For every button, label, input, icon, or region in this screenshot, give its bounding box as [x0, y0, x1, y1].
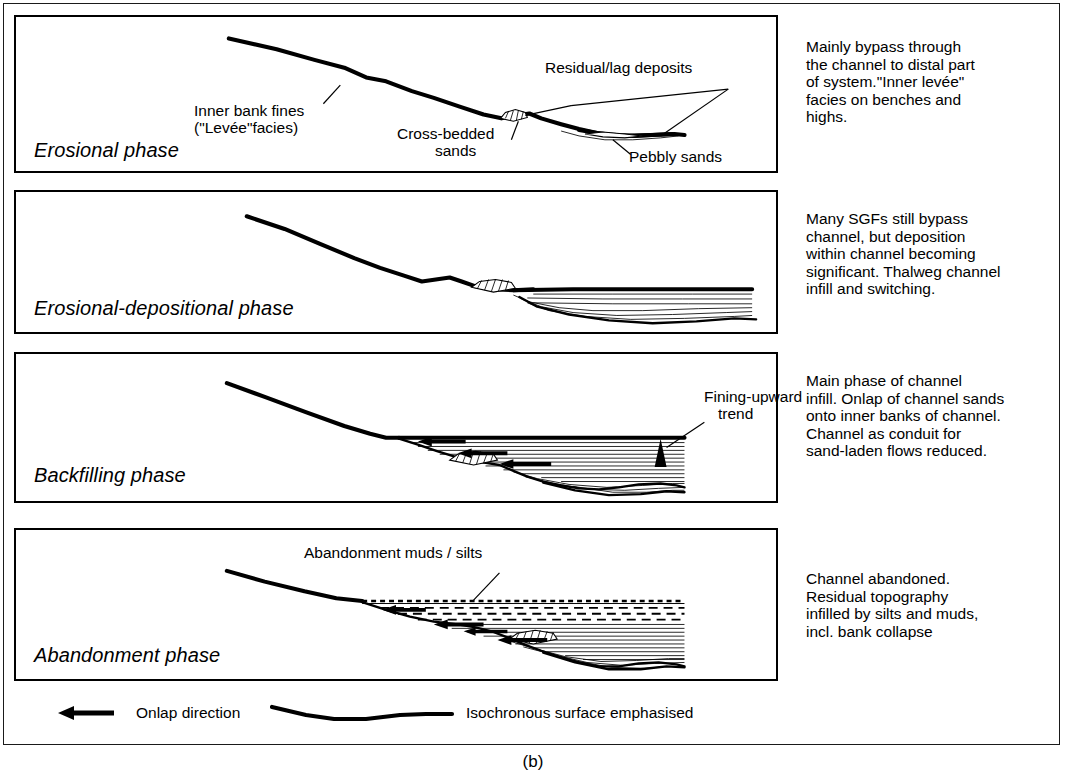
legend-label-isochronous-surface: Isochronous surface emphasised: [466, 704, 693, 722]
panel-erosional-depositional-phase: Erosional-depositional phase: [14, 190, 778, 334]
figure-caption: (b): [0, 752, 1066, 772]
onlap-arrow-icon: [58, 706, 114, 720]
figure-legend: Onlap direction Isochronous surface emph…: [14, 690, 778, 737]
phase-label-backfilling: Backfilling phase: [34, 464, 186, 487]
legend-label-onlap-direction: Onlap direction: [136, 704, 240, 722]
annotation-cross-bedded-sands: sands: [435, 142, 476, 159]
annotation-residual-lag-deposits: Residual/lag deposits: [545, 59, 692, 76]
annotation-pebbly-sands: Pebbly sands: [629, 148, 722, 165]
figure-root: Erosional phase Inner bank fines ("Levée…: [0, 0, 1066, 784]
annotation-fining-upward: Fining-upward: [704, 388, 802, 405]
phase-label-erosional-depositional: Erosional-depositional phase: [34, 297, 294, 320]
onlap-arrow-group: [418, 437, 551, 469]
description-erosional-phase: Mainly bypass through the channel to dis…: [806, 38, 1046, 126]
annotation-cross-bedded: Cross-bedded: [397, 125, 494, 142]
description-abandonment-phase: Channel abandoned. Residual topography i…: [806, 570, 1046, 640]
abandonment-muds-leader: [474, 573, 500, 600]
onlap-arrow-group: [382, 605, 547, 645]
isochronous-surface-icon: [272, 707, 452, 719]
annotation-levee-facies: ("Levée"facies): [194, 119, 298, 136]
annotation-abandonment-muds-silts: Abandonment muds / silts: [304, 544, 482, 561]
annotation-inner-bank-fines: Inner bank fines: [194, 102, 304, 119]
phase-label-abandonment: Abandonment phase: [34, 644, 220, 667]
annotation-fining-upward-trend: trend: [718, 405, 753, 422]
description-erosional-depositional-phase: Many SGFs still bypass channel, but depo…: [806, 210, 1046, 298]
description-backfilling-phase: Main phase of channel infill. Onlap of c…: [806, 372, 1046, 460]
panel-erosional-phase: Erosional phase Inner bank fines ("Levée…: [14, 15, 778, 173]
panel-abandonment-phase: Abandonment phase Abandonment muds / sil…: [14, 528, 778, 681]
fining-upward-leader: [667, 422, 705, 447]
panel-backfilling-phase: Backfilling phase Fining-upward trend: [14, 352, 778, 503]
phase-label-erosional: Erosional phase: [34, 139, 179, 162]
